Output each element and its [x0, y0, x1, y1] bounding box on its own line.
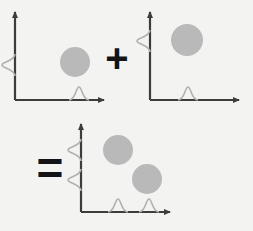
panel-term-2-x-marginal-curve — [178, 87, 198, 100]
panel-term-1-blob — [60, 47, 90, 77]
panel-term-2-blob — [171, 24, 203, 56]
diagram-canvas: + = — [0, 0, 253, 231]
panel-sum-x-marginal-curve-peak-2 — [139, 199, 159, 212]
panel-term-2-y-marginal-curve — [137, 30, 150, 52]
panel-term-1 — [2, 12, 104, 100]
panel-term-2 — [137, 12, 239, 100]
equals-operator: = — [31, 145, 69, 185]
panel-sum-blob-2 — [132, 164, 162, 194]
panel-sum-blob-1 — [103, 135, 133, 165]
panel-sum — [68, 124, 170, 212]
panel-sum-y-marginal-curve-peak-2 — [68, 169, 81, 191]
plus-operator: + — [101, 38, 133, 70]
panel-sum-y-marginal-curve-peak-1 — [68, 139, 81, 161]
panel-sum-x-marginal-curve-peak-1 — [108, 199, 128, 212]
panel-term-1-y-marginal-curve — [2, 54, 15, 76]
diagram-figure — [0, 0, 253, 231]
panel-term-1-x-marginal-curve — [69, 87, 89, 100]
